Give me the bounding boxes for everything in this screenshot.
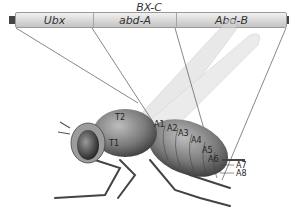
label-a4: A4 xyxy=(191,136,202,145)
wings xyxy=(140,19,260,128)
label-a3: A3 xyxy=(178,129,189,138)
label-t1: T1 xyxy=(108,139,119,148)
label-t2: T2 xyxy=(114,113,125,122)
label-a5: A5 xyxy=(202,146,213,155)
antenna xyxy=(58,122,70,134)
label-a8: A8 xyxy=(236,169,247,178)
fly-illustration: T2 T1 A1 A2 A3 A4 A5 A6 A7 A8 xyxy=(0,0,298,207)
compound-eye xyxy=(77,130,99,160)
label-a1: A1 xyxy=(154,120,165,129)
label-a6: A6 xyxy=(208,155,219,164)
label-a2: A2 xyxy=(167,124,178,133)
